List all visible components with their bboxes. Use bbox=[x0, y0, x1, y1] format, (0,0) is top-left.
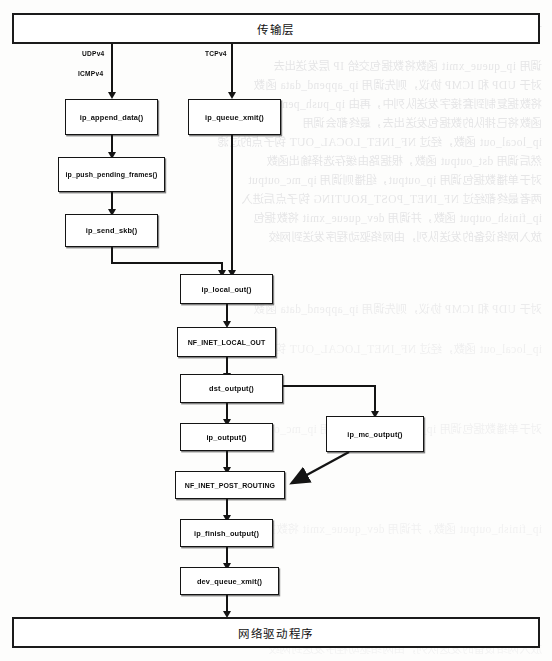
edge-label-icmpv4: ICMPv4 bbox=[78, 70, 103, 78]
node-label: ip_finish_output() bbox=[194, 528, 259, 538]
node-ip-queue-xmit[interactable]: ip_queue_xmit() bbox=[188, 99, 281, 135]
node-label: NF_INET_POST_ROUTING bbox=[185, 481, 275, 489]
edge-label-tcpv4: TCPv4 bbox=[205, 50, 227, 58]
transport-layer-label: 传输层 bbox=[257, 21, 295, 37]
network-driver-label: 网络驱动程序 bbox=[238, 625, 314, 641]
node-dev-queue-xmit[interactable]: dev_queue_xmit() bbox=[180, 567, 279, 595]
node-ip-send-skb[interactable]: ip_send_skb() bbox=[65, 214, 158, 247]
node-label: ip_append_data() bbox=[80, 112, 144, 122]
node-label: ip_local_out() bbox=[201, 284, 251, 294]
node-ip-finish-output[interactable]: ip_finish_output() bbox=[180, 519, 273, 547]
arrowhead-to-ip-append-data bbox=[108, 92, 116, 99]
ghost-text-line: 对于单播数据包调用 ip_output，组播则调用 ip_mc_output bbox=[10, 420, 542, 436]
ghost-text-line: ip_local_out 函数，经过 NF_INET_LOCAL_OUT 钩子点… bbox=[10, 133, 542, 149]
ghost-text-line: 对于 UDP 和 ICMP 协议，则先调用 ip_append_data 函数 bbox=[10, 300, 542, 316]
arrowhead-to-ip-queue-xmit bbox=[228, 92, 236, 99]
node-label: dev_queue_xmit() bbox=[197, 576, 262, 586]
node-label: ip_queue_xmit() bbox=[205, 112, 264, 122]
transport-layer-band: 传输层 bbox=[12, 13, 540, 44]
ghost-text-line: 两者最终都经过 NF_INET_POST_ROUTING 钩子点后进入 bbox=[10, 190, 542, 206]
ghost-text-line: ip_local_out 函数，经过 NF_INET_LOCAL_OUT 钩子点… bbox=[10, 340, 542, 356]
ghost-text-line: ip_finish_output 函数，并调用 dev_queue_xmit 将… bbox=[10, 520, 542, 536]
node-ip-mc-output[interactable]: ip_mc_output() bbox=[326, 416, 424, 452]
node-label: ip_send_skb() bbox=[86, 226, 138, 236]
network-driver-band: 网络驱动程序 bbox=[12, 617, 540, 648]
node-ip-output[interactable]: ip_output() bbox=[180, 423, 273, 451]
connector-udp-icmp-to-ip-append-data bbox=[111, 44, 113, 94]
connector-tcp-to-ip-queue-xmit bbox=[231, 44, 233, 94]
edge-label-udpv4: UDPv4 bbox=[82, 50, 105, 58]
node-ip-append-data[interactable]: ip_append_data() bbox=[65, 99, 158, 135]
connector-ip-send-skb-across bbox=[111, 262, 223, 264]
node-dst-output[interactable]: dst_output() bbox=[180, 374, 283, 403]
diagram-page: 一个套接字缓冲区发送到下层协议模块进行处理 调用 ip_queue_xmit 函… bbox=[0, 0, 552, 661]
node-nf-inet-post-routing[interactable]: NF_INET_POST_ROUTING bbox=[175, 471, 285, 499]
node-label: NF_INET_LOCAL_OUT bbox=[188, 338, 266, 346]
node-ip-push-pending-frames[interactable]: ip_push_pending_frames() bbox=[58, 157, 165, 192]
node-label: ip_push_pending_frames() bbox=[66, 171, 158, 179]
node-label: ip_mc_output() bbox=[347, 429, 402, 439]
ghost-text-line: 对于 UDP 和 ICMP 协议，则先调用 ip_append_data 函数 bbox=[10, 76, 542, 92]
node-label: dst_output() bbox=[209, 384, 254, 394]
node-ip-local-out[interactable]: ip_local_out() bbox=[180, 274, 273, 304]
node-label: ip_output() bbox=[206, 432, 246, 442]
connector-ip-queue-xmit-to-ip-local-out bbox=[231, 135, 233, 274]
connector-dst-output-branch-across bbox=[283, 385, 376, 387]
node-nf-inet-local-out[interactable]: NF_INET_LOCAL_OUT bbox=[177, 327, 276, 357]
